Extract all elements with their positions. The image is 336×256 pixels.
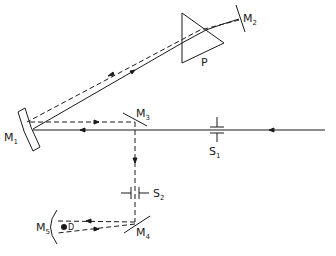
- label-s2: S2: [153, 187, 164, 202]
- beam-arrow-icon: [80, 128, 85, 132]
- label-prism: P: [201, 56, 208, 69]
- beam-arrow-icon: [269, 128, 274, 132]
- detector-dot: [61, 224, 67, 230]
- label-m5: M5: [36, 221, 50, 236]
- dashed-beam-from-m2: [200, 20, 239, 30]
- beam-arrow-icon: [94, 120, 99, 124]
- beam-arrow-icon: [130, 70, 135, 74]
- dashed-beam-m4-to-m5-upper: [58, 221, 135, 222]
- dashed-beam-to-m1: [27, 30, 200, 122]
- beam-arrow-icon: [133, 158, 137, 163]
- label-s1: S1: [209, 145, 220, 160]
- solid-beam-to-prism: [33, 43, 182, 129]
- label-detector: D: [68, 223, 74, 232]
- solid-beam-through-prism: [182, 30, 206, 43]
- mirror-m5: [51, 210, 58, 244]
- optical-diagram: M2 P M1 M3 S1 S2 M4 M5 D: [0, 0, 336, 256]
- beam-arrow-icon: [108, 72, 114, 76]
- label-m1: M1: [4, 131, 18, 146]
- beam-arrow-icon: [94, 227, 99, 231]
- label-m2: M2: [243, 12, 257, 27]
- label-m4: M4: [136, 226, 151, 241]
- label-m3: M3: [136, 107, 150, 122]
- beam-arrow-icon: [86, 219, 91, 223]
